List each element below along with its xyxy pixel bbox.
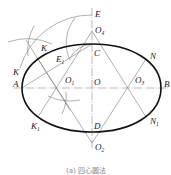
label-O4: O4 [95,25,105,36]
label-K1: K1 [30,121,40,132]
ellipse-construction-diagram: E O4 C K E1 K A O1 O O3 B N K1 D N1 O2 (… [0,0,171,175]
arc-cut-vertical [66,18,75,60]
label-D: D [93,121,101,131]
label-O2: O2 [95,142,105,153]
label-B: B [164,79,170,89]
label-E1: E1 [55,54,65,65]
label-C: C [94,48,101,58]
label-O1: O1 [65,75,75,86]
label-O3: O3 [135,75,145,86]
label-N: N [149,51,157,61]
label-K-left: K [12,67,20,77]
perpendicular-bisector [26,40,70,110]
label-N1: N1 [149,116,159,127]
label-E: E [94,9,101,19]
label-A: A [12,79,19,89]
label-O: O [94,77,101,87]
figure-caption: (a) 四心圆法 [66,166,106,175]
label-K-top: K [40,43,48,53]
